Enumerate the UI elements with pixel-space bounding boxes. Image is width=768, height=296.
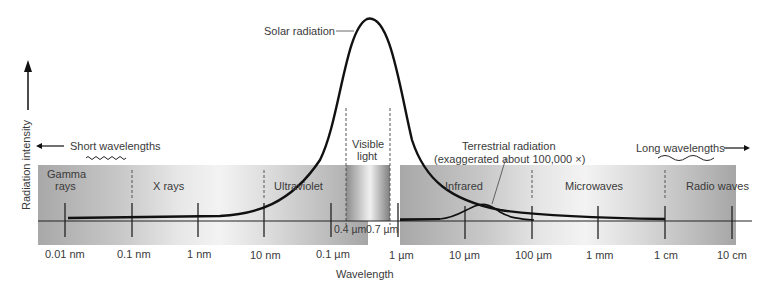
- terrestrial-base-line: [400, 219, 440, 220]
- band-label-radio: Radio waves: [686, 180, 749, 192]
- tick-label: 1 µm: [389, 249, 414, 261]
- right-arrowhead-icon: [744, 145, 750, 151]
- spectrum-band-right: [400, 165, 736, 245]
- spectrum-band: [38, 165, 368, 245]
- tick-label: 1 cm: [654, 249, 678, 261]
- terrestrial-label-line1: Terrestrial radiation: [462, 140, 556, 152]
- visible-end-label: 0.7 µm: [366, 223, 399, 235]
- tick-label: 0.1 µm: [316, 248, 350, 260]
- tick-label: 0.01 nm: [45, 248, 85, 260]
- tick-label: 1 nm: [187, 248, 211, 260]
- solar-radiation-label: Solar radiation: [264, 25, 335, 37]
- band-label-microwaves: Microwaves: [565, 180, 624, 192]
- visible-start-label: 0.4 µm: [334, 223, 367, 235]
- band-label-xrays: X rays: [153, 180, 185, 192]
- tick-label: 100 µm: [515, 249, 552, 261]
- band-label-ultraviolet: Ultraviolet: [274, 180, 323, 192]
- short-wavelengths-label: Short wavelengths: [70, 140, 161, 152]
- y-axis-arrowhead-icon: [24, 60, 32, 72]
- tick-labels: 0.01 nm 0.1 nm 1 nm 10 nm 0.1 µm 1 µm 10…: [45, 248, 747, 261]
- long-wave-squiggle-icon: [658, 156, 714, 161]
- band-label-gamma-1: Gamma: [47, 168, 87, 180]
- y-axis-label: Radiation intensity: [20, 120, 32, 210]
- tick-label: 1 mm: [586, 249, 614, 261]
- terrestrial-label-line2: (exaggerated about 100,000 ×): [434, 153, 585, 165]
- short-wave-squiggle-icon: [86, 157, 126, 160]
- tick-label: 10 µm: [449, 249, 480, 261]
- tick-label: 10 cm: [717, 249, 747, 261]
- band-label-visible-2: light: [357, 150, 377, 162]
- left-arrowhead-icon: [36, 143, 42, 149]
- band-label-infrared: Infrared: [445, 180, 483, 192]
- x-axis-label: Wavelength: [336, 268, 394, 280]
- long-wavelengths-label: Long wavelengths: [636, 142, 725, 154]
- visible-light-block: [346, 165, 390, 221]
- tick-label: 10 nm: [250, 249, 281, 261]
- band-label-visible-1: Visible: [352, 138, 384, 150]
- band-label-gamma-2: rays: [55, 180, 76, 192]
- spectrum-diagram: Radiation intensity Wavelength Short wav…: [0, 0, 768, 296]
- tick-label: 0.1 nm: [117, 248, 151, 260]
